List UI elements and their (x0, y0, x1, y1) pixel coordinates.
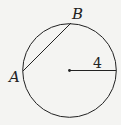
radius-label: 4 (93, 55, 102, 71)
circle-diagram: A B 4 (0, 0, 121, 125)
chord-ab (23, 23, 71, 71)
point-a-label: A (7, 68, 20, 86)
center-point (68, 69, 71, 72)
point-b-label: B (71, 5, 83, 23)
